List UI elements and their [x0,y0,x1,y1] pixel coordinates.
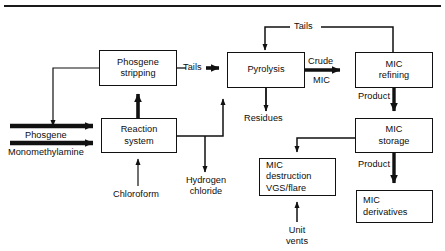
figure-canvas: Phosgene stripping Reaction system Pyrol… [0,0,445,251]
label-unit-vents: Unit vents [275,225,319,247]
label-phosgene-feed: Phosgene [25,130,67,141]
node-label-line: stripping [120,68,155,79]
node-mic-storage[interactable]: MIC storage [355,118,433,153]
node-mic-destruction[interactable]: MIC destruction VGS/flare [259,158,336,196]
node-label-line: refining [379,70,410,81]
label-monomethylamine-feed: Monomethylamine [8,147,84,158]
node-label-line: storage [379,136,410,147]
label-mic: MIC [313,75,330,86]
connector-storage-to-destruction [297,138,355,152]
node-phosgene-stripping[interactable]: Phosgene stripping [99,50,177,86]
node-label-line: MIC [363,195,380,206]
connector-stripping-recycle [53,68,99,126]
node-label-line: MIC [386,59,403,70]
label-crude: Crude [308,56,333,67]
node-label-line: MIC [266,160,283,171]
label-hydrogen-chloride: Hydrogen chloride [180,175,232,197]
label-line: vents [275,236,319,247]
node-label-line: Phosgene [117,57,159,68]
node-reaction-system[interactable]: Reaction system [101,118,177,153]
node-label-line: Pyrolysis [247,64,284,75]
label-line: Hydrogen [180,175,232,186]
node-label-line: destruction [266,171,312,182]
node-label-line: system [124,136,153,147]
label-line: chloride [180,186,232,197]
node-label-line: VGS/flare [266,183,306,194]
label-chloroform-feed: Chloroform [113,189,159,200]
node-mic-derivatives[interactable]: MIC derivatives [356,190,433,223]
node-label-line: derivatives [363,207,407,218]
label-product-refining: Product [358,91,390,102]
label-product-storage: Product [358,159,390,170]
label-tails-recycle: Tails [294,21,313,32]
connector-reaction-out [177,99,223,136]
label-residues: Residues [244,113,283,124]
connector-tails-recycle [321,27,393,52]
node-label-line: MIC [386,124,403,135]
node-pyrolysis[interactable]: Pyrolysis [227,52,305,88]
node-mic-refining[interactable]: MIC refining [355,52,433,88]
label-line: Unit [275,225,319,236]
node-label-line: Reaction [121,124,158,135]
label-tails-stripping: Tails [183,62,202,73]
